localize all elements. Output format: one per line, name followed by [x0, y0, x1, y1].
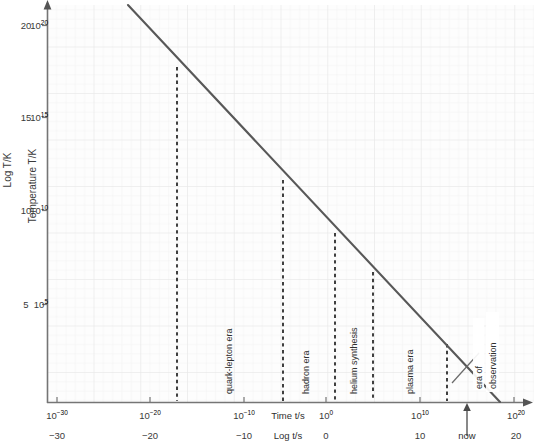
era-label-observation-line1: era of: [474, 365, 484, 389]
x-tick-time-1e10: 1010: [411, 409, 429, 421]
y-axis-title-temperature: Temperature T/K: [27, 149, 38, 224]
cosmology-temperature-time-chart: 20 15 10 5 1020 1015 1010 105 Log T/K Te…: [0, 0, 534, 446]
x-tick-time-1e-20: 10−20: [139, 409, 161, 421]
chart-svg: 20 15 10 5 1020 1015 1010 105 Log T/K Te…: [0, 0, 534, 446]
x-tick-time-1e-30: 10−30: [46, 409, 68, 421]
y-axis-title-log: Log T/K: [2, 152, 13, 187]
plot-grid-background: [48, 5, 534, 402]
x-tick-log-10: 10: [415, 430, 426, 441]
x-axis-title-log: Log t/s: [274, 430, 303, 441]
era-label-quark-lepton: quark-lepton era: [224, 328, 234, 394]
x-tick-log-0: 0: [323, 430, 328, 441]
x-tick-time-1e-10: 10−10: [233, 409, 255, 421]
now-marker: now: [458, 403, 476, 441]
y-tick-temp-1e5: 105: [34, 298, 49, 310]
era-label-helium-synthesis: helium synthesis: [349, 327, 359, 394]
era-label-hadron: hadron era: [301, 350, 311, 394]
x-tick-log-m10: −10: [236, 430, 252, 441]
y-tick-temp-1e20: 1020: [30, 19, 48, 31]
y-tick-temp-1e15: 1015: [30, 111, 48, 123]
y-tick-log-5: 5: [23, 299, 28, 310]
now-label: now: [458, 430, 476, 441]
era-label-plasma: plasma era: [405, 349, 415, 394]
x-tick-log-20: 20: [511, 430, 522, 441]
era-label-observation-line2: observation: [488, 342, 498, 389]
x-tick-log-m20: −20: [142, 430, 158, 441]
x-tick-time-1e0: 100: [319, 409, 334, 421]
x-axis-title-time: Time t/s: [271, 410, 305, 421]
x-tick-log-m30: −30: [49, 430, 65, 441]
x-tick-time-1e20: 1020: [507, 409, 525, 421]
